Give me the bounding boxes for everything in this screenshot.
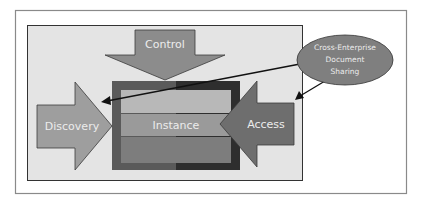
xds-label-line1: Cross-Enterprise <box>314 43 376 52</box>
instance-label: Instance <box>153 119 200 132</box>
control-label: Control <box>145 38 185 51</box>
xds-ellipse: Cross-Enterprise Document Sharing <box>297 35 393 85</box>
xds-label-line2: Document <box>326 55 365 64</box>
diagram-canvas: Control Instance Discovery Access Cross-… <box>0 0 439 201</box>
discovery-label: Discovery <box>45 120 100 133</box>
xds-label-line3: Sharing <box>331 67 360 76</box>
access-label: Access <box>247 118 285 131</box>
